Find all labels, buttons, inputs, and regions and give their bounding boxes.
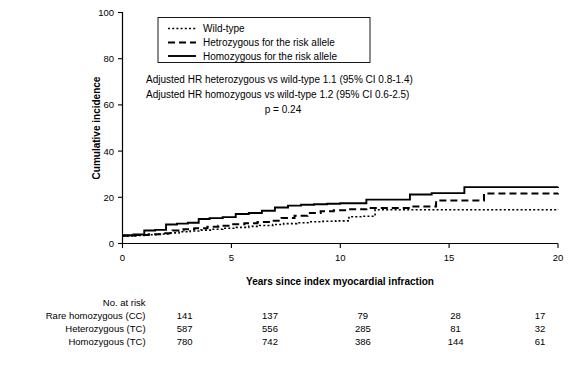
y-tick-label-80: 80 <box>103 53 114 64</box>
risk-cell: 32 <box>502 322 578 335</box>
risk-cell: 780 <box>146 335 224 348</box>
x-tick-label-20: 20 <box>553 252 564 263</box>
risk-cell: 556 <box>224 322 317 335</box>
table-row: Rare homozygous (CC) 141 137 79 28 17 <box>0 309 578 322</box>
risk-cell: 61 <box>502 335 578 348</box>
y-tick-label-20: 20 <box>103 192 114 203</box>
risk-cell: 742 <box>224 335 317 348</box>
risk-cell: 28 <box>409 309 502 322</box>
risk-cell: 79 <box>316 309 409 322</box>
legend-label-wild-type: Wild-type <box>203 23 245 34</box>
series-group <box>123 187 559 236</box>
table-row: Homozygous (TC) 780 742 386 144 61 <box>0 335 578 348</box>
risk-row-label-homozygous: Homozygous (TC) <box>0 335 146 348</box>
y-tick-label-40: 40 <box>103 146 114 157</box>
annotation-hr-homozygous: Adjusted HR homozygous vs wild-type 1.2 … <box>146 89 409 100</box>
x-tick-label-10: 10 <box>335 252 346 263</box>
x-axis-tick-labels: 0 5 10 15 20 <box>120 252 563 263</box>
risk-cell: 144 <box>409 335 502 348</box>
y-tick-label-100: 100 <box>98 7 114 18</box>
table-row-heading: No. at risk <box>0 296 578 309</box>
risk-row-label-heterozygous: Heterozygous (TC) <box>0 322 146 335</box>
x-axis-ticks <box>123 244 559 249</box>
annotation-p-value: p = 0.24 <box>265 104 302 115</box>
risk-cell: 137 <box>224 309 317 322</box>
annotation-hr-heterozygous: Adjusted HR heterozygous vs wild-type 1.… <box>146 74 413 85</box>
legend-label-heterozygous: Hetrozygous for the risk allele <box>203 37 335 48</box>
risk-cell: 587 <box>146 322 224 335</box>
number-at-risk-table: No. at risk Rare homozygous (CC) 141 137… <box>0 296 578 348</box>
risk-cell: 141 <box>146 309 224 322</box>
risk-cell: 17 <box>502 309 578 322</box>
chart-legend: Wild-type Hetrozygous for the risk allel… <box>158 18 370 63</box>
risk-row-label-rare-homozygous: Rare homozygous (CC) <box>0 309 146 322</box>
risk-cell: 285 <box>316 322 409 335</box>
figure-container: 100 80 60 40 20 0 0 5 10 15 20 Years sin… <box>0 0 578 368</box>
x-tick-label-5: 5 <box>229 252 234 263</box>
risk-table-heading: No. at risk <box>0 296 146 309</box>
y-tick-label-0: 0 <box>109 238 114 249</box>
table-row: Heterozygous (TC) 587 556 285 81 32 <box>0 322 578 335</box>
x-tick-label-15: 15 <box>444 252 455 263</box>
chart-annotations: Adjusted HR heterozygous vs wild-type 1.… <box>146 74 413 115</box>
series-heterozygous <box>123 193 559 236</box>
y-axis-title: Cumulative incidence <box>91 76 102 179</box>
risk-cell: 81 <box>409 322 502 335</box>
y-axis-ticks <box>118 13 123 244</box>
risk-cell: 386 <box>316 335 409 348</box>
y-tick-label-60: 60 <box>103 99 114 110</box>
legend-label-homozygous: Homozygous for the risk allele <box>203 51 337 62</box>
x-axis-title: Years since index myocardial infraction <box>246 276 434 287</box>
x-tick-label-0: 0 <box>120 252 125 263</box>
